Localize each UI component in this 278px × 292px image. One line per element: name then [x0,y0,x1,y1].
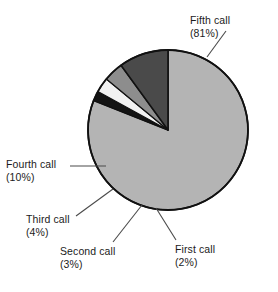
pie-label-fourth-call-name: Fourth call [6,158,56,171]
leader-line-third-call [76,189,113,216]
pie-label-second-call: Second call (3%) [60,245,115,270]
pie-label-fourth-call: Fourth call (10%) [6,158,56,183]
pie-label-fifth-call-percent: (81%) [190,27,230,40]
pie-label-second-call-percent: (3%) [60,258,115,271]
pie-chart-canvas [0,0,278,292]
pie-label-fourth-call-percent: (10%) [6,171,56,184]
pie-label-third-call-percent: (4%) [26,226,70,239]
pie-label-first-call: First call (2%) [175,243,215,268]
pie-chart: Fifth call (81%) Fourth call (10%) Third… [0,0,278,292]
pie-label-third-call-name: Third call [26,213,70,226]
pie-label-third-call: Third call (4%) [26,213,70,238]
pie-label-first-call-percent: (2%) [175,256,215,269]
leader-line-first-call [156,208,176,240]
pie-label-fifth-call: Fifth call (81%) [190,14,230,39]
pie-label-first-call-name: First call [175,243,215,256]
pie-label-fifth-call-name: Fifth call [190,14,230,27]
leader-line-second-call [113,205,142,242]
pie-label-second-call-name: Second call [60,245,115,258]
